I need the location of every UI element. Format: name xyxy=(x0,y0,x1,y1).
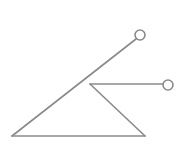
inner-diagonal-line xyxy=(90,84,145,136)
long-diagonal-line xyxy=(12,39,136,136)
right-endpoint-circle xyxy=(163,80,173,90)
upper-endpoint-circle xyxy=(135,30,145,40)
diagram-canvas xyxy=(0,0,190,159)
line-diagram xyxy=(0,0,190,159)
